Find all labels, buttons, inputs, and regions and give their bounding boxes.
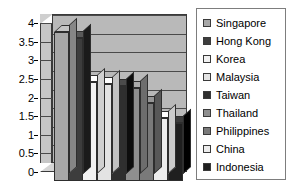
legend-item-label: Singapore: [216, 18, 266, 29]
legend-item[interactable]: Singapore: [203, 14, 281, 32]
bar-side-face: [154, 89, 162, 174]
bar-series: [52, 23, 187, 172]
legend-swatch-icon: [203, 145, 211, 153]
legend-swatch-icon: [203, 37, 211, 45]
legend-item[interactable]: Taiwan: [203, 86, 281, 104]
legend-swatch-icon: [203, 127, 211, 135]
legend-item-label: China: [216, 144, 245, 155]
bar: [54, 32, 69, 181]
legend-swatch-icon: [203, 91, 211, 99]
bar-side-face: [140, 74, 148, 174]
legend-item[interactable]: China: [203, 140, 281, 158]
bar-side-face: [168, 103, 176, 174]
legend-item-label: Thailand: [216, 108, 258, 119]
legend-item-label: Malaysia: [216, 72, 259, 83]
legend-item[interactable]: Indonesia: [203, 158, 281, 176]
y-axis-tick-mark: [34, 23, 38, 24]
y-axis-tick-mark: [34, 98, 38, 99]
legend-item-label: Taiwan: [216, 90, 250, 101]
chart-figure: 43.532.521.510.50 SingaporeHong KongKore…: [0, 0, 295, 187]
y-axis-tick-mark: [34, 79, 38, 80]
legend-item[interactable]: Philippines: [203, 122, 281, 140]
bar-side-face: [83, 23, 91, 174]
y-axis-tick-mark: [34, 172, 38, 173]
y-axis-tick-mark: [34, 116, 38, 117]
legend-item-label: Indonesia: [216, 162, 264, 173]
legend-item-label: Korea: [216, 54, 245, 65]
legend-item[interactable]: Malaysia: [203, 68, 281, 86]
bar-side-face: [112, 70, 120, 174]
legend-swatch-icon: [203, 19, 211, 27]
y-axis-tick-label: 2.5: [19, 73, 34, 85]
y-axis-tick-label: 0.5: [19, 147, 34, 159]
bar-side-face: [126, 72, 134, 174]
legend-item[interactable]: Thailand: [203, 104, 281, 122]
chart-legend: SingaporeHong KongKoreaMalaysiaTaiwanTha…: [196, 8, 286, 180]
legend-item-label: Hong Kong: [216, 36, 271, 47]
y-axis: 43.532.521.510.50: [0, 14, 38, 172]
bar-side-face: [183, 109, 191, 174]
legend-item[interactable]: Hong Kong: [203, 32, 281, 50]
bar-side-face: [97, 68, 105, 174]
legend-swatch-icon: [203, 73, 211, 81]
legend-item-label: Philippines: [216, 126, 269, 137]
gridline: [53, 15, 186, 16]
plot-area: [40, 14, 187, 172]
legend-swatch-icon: [203, 163, 211, 171]
y-axis-tick-mark: [34, 60, 38, 61]
axis-side-wall: [40, 23, 52, 172]
legend-swatch-icon: [203, 109, 211, 117]
y-axis-tick-label: 3.5: [19, 36, 34, 48]
y-axis-tick-label: 1.5: [19, 110, 34, 122]
legend-swatch-icon: [203, 55, 211, 63]
y-axis-tick-mark: [34, 42, 38, 43]
bar-front-face: [54, 32, 69, 181]
y-axis-tick-mark: [34, 135, 38, 136]
y-axis-tick-mark: [34, 153, 38, 154]
bar-side-face: [69, 18, 77, 174]
legend-item[interactable]: Korea: [203, 50, 281, 68]
